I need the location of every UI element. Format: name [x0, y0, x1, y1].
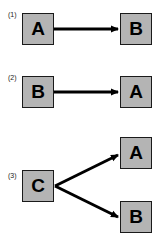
diagram-2-node-a: A	[120, 76, 152, 108]
diagram-1-node-b: B	[120, 13, 152, 45]
diagram-1-node-a: A	[22, 13, 54, 45]
diagram-3-label: (3)	[8, 172, 17, 179]
diagram-3-node-a: A	[120, 137, 152, 169]
arrow-3-c-to-a	[55, 155, 118, 186]
arrow-3-c-to-b	[55, 186, 118, 217]
diagram-2-label: (2)	[8, 74, 17, 81]
diagram-1-label: (1)	[8, 11, 17, 18]
diagram-3-node-c: C	[22, 170, 54, 202]
diagram-3-node-b: B	[120, 201, 152, 233]
diagram-2-node-b: B	[22, 76, 54, 108]
